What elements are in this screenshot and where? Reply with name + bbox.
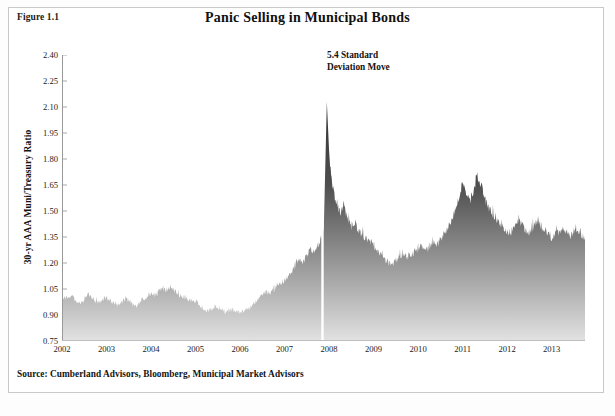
- y-tick-label: 1.80: [24, 154, 58, 164]
- chart-plot-area: [62, 55, 585, 341]
- source-note: Source: Cumberland Advisors, Bloomberg, …: [17, 369, 304, 379]
- y-tick-label: 1.95: [24, 128, 58, 138]
- figure-container: Figure 1.1 Panic Selling in Municipal Bo…: [0, 0, 615, 416]
- x-tick-label: 2002: [42, 344, 82, 354]
- chart-title: Panic Selling in Municipal Bonds: [0, 10, 615, 26]
- x-tick-label: 2003: [87, 344, 127, 354]
- x-tick-label: 2013: [532, 344, 572, 354]
- y-tick-label: 1.05: [24, 284, 58, 294]
- y-tick-label: 2.25: [24, 76, 58, 86]
- data-gap-line: [321, 55, 323, 341]
- x-tick-label: 2012: [487, 344, 527, 354]
- x-tick-label: 2009: [354, 344, 394, 354]
- y-tick-label: 1.20: [24, 258, 58, 268]
- y-tick-label: 1.65: [24, 180, 58, 190]
- x-tick-label: 2007: [265, 344, 305, 354]
- x-tick-label: 2011: [443, 344, 483, 354]
- x-tick-label: 2004: [131, 344, 171, 354]
- y-tick-label: 1.50: [24, 206, 58, 216]
- x-tick-label: 2005: [176, 344, 216, 354]
- y-tick-label: 0.90: [24, 310, 58, 320]
- x-tick-label: 2008: [309, 344, 349, 354]
- y-tick-label: 1.35: [24, 232, 58, 242]
- y-tick-label: 2.10: [24, 102, 58, 112]
- x-axis-tick-labels: 2002200320042005200620072008200920102011…: [0, 344, 615, 360]
- area-chart-svg: [62, 55, 585, 341]
- y-tick-label: 2.40: [24, 50, 58, 60]
- peak-annotation: 5.4 Standard Deviation Move: [327, 50, 437, 73]
- annotation-line-2: Deviation Move: [327, 62, 437, 74]
- x-tick-label: 2006: [220, 344, 260, 354]
- x-tick-label: 2010: [398, 344, 438, 354]
- annotation-line-1: 5.4 Standard: [327, 50, 437, 62]
